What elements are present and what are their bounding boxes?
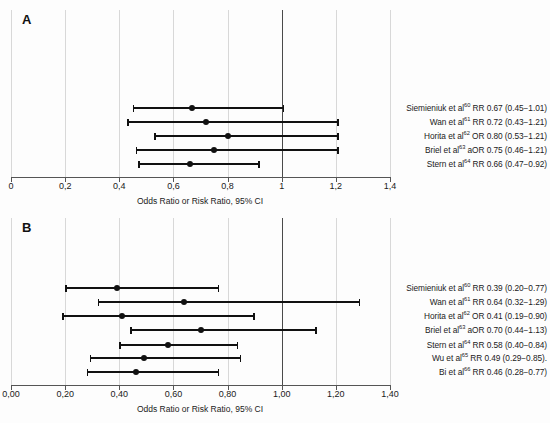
x-tick-label-0,2: 0,2 bbox=[59, 181, 72, 191]
reference-superscript: 60 bbox=[464, 102, 470, 108]
panel-a-letter: A bbox=[22, 12, 32, 27]
panel-a: 00,20,40,60,811,21,4Odds Ratio or Risk R… bbox=[0, 0, 550, 212]
point-estimate-marker bbox=[187, 161, 193, 167]
ci-bar bbox=[127, 121, 338, 123]
ci-cap-upper bbox=[240, 355, 242, 362]
x-axis-title: Odds Ratio or Risk Ratio, 95% CI bbox=[137, 196, 263, 206]
ci-cap-upper bbox=[258, 161, 260, 168]
ci-cap-lower bbox=[127, 119, 129, 126]
ci-cap-lower bbox=[130, 327, 132, 334]
ci-cap-lower bbox=[65, 285, 67, 292]
study-label: Siemieniuk et al60 RR 0.67 (0.45−1.01) bbox=[406, 103, 547, 113]
reference-superscript: 61 bbox=[464, 296, 470, 302]
panel-b-letter: B bbox=[22, 220, 32, 235]
x-tick-label-0,8: 0,8 bbox=[221, 181, 234, 191]
study-label: Horita et al62 OR 0.80 (0.53−1.21) bbox=[424, 131, 547, 141]
x-tick-label-0,6: 0,6 bbox=[167, 181, 180, 191]
ci-cap-lower bbox=[119, 342, 121, 349]
ci-cap-lower bbox=[62, 313, 64, 320]
ci-bar bbox=[130, 329, 317, 331]
reference-superscript: 62 bbox=[464, 310, 470, 316]
x-tick-label-1,2: 1,2 bbox=[330, 181, 343, 191]
gridline-0,00 bbox=[11, 218, 12, 385]
reference-superscript: 65 bbox=[462, 352, 468, 358]
ci-cap-lower bbox=[98, 299, 100, 306]
point-estimate-marker bbox=[203, 119, 209, 125]
ci-bar bbox=[90, 357, 242, 359]
ci-cap-upper bbox=[218, 285, 220, 292]
reference-superscript: 64 bbox=[464, 339, 470, 345]
x-tick-label-0: 0 bbox=[8, 181, 13, 191]
x-axis-line bbox=[11, 177, 390, 178]
reference-superscript: 60 bbox=[464, 282, 470, 288]
gridline-0,6 bbox=[173, 10, 174, 177]
x-tick-label-0,00: 0,00 bbox=[2, 389, 20, 399]
ci-cap-lower bbox=[90, 355, 92, 362]
ci-cap-lower bbox=[154, 133, 156, 140]
x-tick-label-1,00: 1,00 bbox=[273, 389, 291, 399]
gridline-0,20 bbox=[65, 218, 66, 385]
ci-bar bbox=[154, 135, 338, 137]
point-estimate-marker bbox=[141, 355, 147, 361]
ci-cap-upper bbox=[218, 369, 220, 376]
study-label: Briel et al63 aOR 0.75 (0.46−1.21) bbox=[425, 145, 547, 155]
ci-cap-upper bbox=[337, 133, 339, 140]
gridline-0,4 bbox=[119, 10, 120, 177]
reference-line bbox=[282, 10, 283, 177]
ci-cap-upper bbox=[337, 119, 339, 126]
panel-a-plot-area: 00,20,40,60,811,21,4Odds Ratio or Risk R… bbox=[0, 0, 550, 212]
ci-cap-upper bbox=[253, 313, 255, 320]
point-estimate-marker bbox=[181, 299, 187, 305]
ci-cap-upper bbox=[237, 342, 239, 349]
x-axis-line bbox=[11, 385, 390, 386]
x-tick-label-1: 1 bbox=[279, 181, 284, 191]
x-tick-label-1,40: 1,40 bbox=[381, 389, 399, 399]
point-estimate-marker bbox=[165, 342, 171, 348]
reference-superscript: 64 bbox=[464, 158, 470, 164]
ci-bar bbox=[98, 301, 361, 303]
study-label: Stern et al64 RR 0.66 (0.47−0.92) bbox=[427, 159, 547, 169]
ci-cap-lower bbox=[138, 161, 140, 168]
ci-cap-upper bbox=[337, 147, 339, 154]
gridline-1,4 bbox=[390, 10, 391, 177]
x-tick-label-0,80: 0,80 bbox=[219, 389, 237, 399]
reference-superscript: 63 bbox=[459, 144, 465, 150]
point-estimate-marker bbox=[211, 147, 217, 153]
reference-superscript: 62 bbox=[464, 130, 470, 136]
study-label: Wan et al61 RR 0.64 (0.32−1.29) bbox=[430, 297, 547, 307]
x-tick-label-0,20: 0,20 bbox=[56, 389, 74, 399]
ci-cap-lower bbox=[87, 369, 89, 376]
point-estimate-marker bbox=[198, 327, 204, 333]
point-estimate-marker bbox=[119, 313, 125, 319]
ci-cap-upper bbox=[359, 299, 361, 306]
ci-bar bbox=[136, 149, 339, 151]
reference-superscript: 63 bbox=[459, 324, 465, 330]
study-label: Wu et al65 RR 0.49 (0.29−0.85). bbox=[432, 353, 547, 363]
ci-bar bbox=[138, 163, 260, 165]
reference-superscript: 61 bbox=[464, 116, 470, 122]
ci-bar bbox=[133, 107, 285, 109]
ci-cap-lower bbox=[133, 105, 135, 112]
ci-cap-lower bbox=[136, 147, 138, 154]
x-axis-title: Odds Ratio or Risk Ratio, 95% CI bbox=[137, 404, 263, 414]
ci-cap-upper bbox=[283, 105, 285, 112]
study-label: Wan et al61 RR 0.72 (0.43−1.21) bbox=[430, 117, 547, 127]
point-estimate-marker bbox=[189, 105, 195, 111]
study-label: Siemieniuk et al60 RR 0.39 (0.20−0.77) bbox=[406, 283, 547, 293]
x-tick-label-1,4: 1,4 bbox=[384, 181, 397, 191]
point-estimate-marker bbox=[133, 369, 139, 375]
reference-superscript: 66 bbox=[464, 366, 470, 372]
ci-bar bbox=[87, 371, 220, 373]
panel-b-plot-area: 0,000,200,400,600,801,001,201,40Odds Rat… bbox=[0, 212, 550, 423]
panel-b: 0,000,200,400,600,801,001,201,40Odds Rat… bbox=[0, 212, 550, 423]
gridline-0,2 bbox=[65, 10, 66, 177]
x-tick-label-0,4: 0,4 bbox=[113, 181, 126, 191]
study-label: Bi et al66 RR 0.46 (0.28−0.77) bbox=[439, 367, 547, 377]
x-tick-label-0,60: 0,60 bbox=[165, 389, 183, 399]
ci-bar bbox=[119, 344, 238, 346]
gridline-1,40 bbox=[390, 218, 391, 385]
ci-cap-upper bbox=[315, 327, 317, 334]
x-tick-label-1,20: 1,20 bbox=[327, 389, 345, 399]
point-estimate-marker bbox=[114, 285, 120, 291]
forest-plot-figure: 00,20,40,60,811,21,4Odds Ratio or Risk R… bbox=[0, 0, 550, 423]
